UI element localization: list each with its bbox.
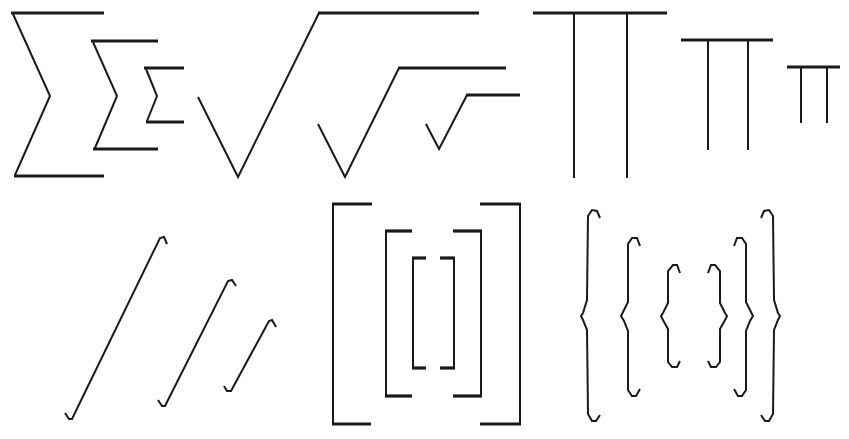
integral-icon-large bbox=[65, 237, 167, 419]
sqrt-icon-medium bbox=[318, 68, 506, 177]
integral-group bbox=[65, 237, 276, 419]
sqrt-group bbox=[198, 13, 520, 177]
product-group bbox=[533, 13, 840, 178]
left-brace-icon-medium bbox=[621, 238, 640, 396]
integral-icon-small bbox=[224, 320, 276, 391]
sigma-icon-medium bbox=[91, 41, 158, 149]
right-bracket-icon-large bbox=[480, 204, 521, 424]
summation-group bbox=[11, 13, 184, 176]
pi-icon-medium bbox=[681, 40, 773, 150]
glyph-figure bbox=[0, 0, 849, 439]
left-brace-icon-large bbox=[581, 210, 600, 421]
pi-icon-small bbox=[787, 67, 840, 123]
left-bracket-icon-large bbox=[332, 204, 372, 424]
sigma-icon-small bbox=[144, 68, 184, 122]
left-bracket-icon-small bbox=[412, 258, 426, 368]
sqrt-icon-small bbox=[426, 95, 520, 149]
right-brace-icon-medium bbox=[734, 238, 753, 396]
braces-group bbox=[581, 210, 780, 421]
right-brace-icon-large bbox=[761, 210, 780, 421]
pi-icon-large bbox=[533, 13, 667, 178]
brackets-group bbox=[332, 204, 521, 424]
right-bracket-icon-medium bbox=[453, 231, 482, 396]
left-brace-icon-small bbox=[661, 265, 680, 367]
sqrt-icon-large bbox=[198, 13, 479, 177]
left-bracket-icon-medium bbox=[385, 231, 412, 396]
right-bracket-icon-small bbox=[440, 258, 455, 368]
right-brace-icon-small bbox=[708, 265, 727, 367]
sigma-icon-large bbox=[11, 13, 104, 176]
